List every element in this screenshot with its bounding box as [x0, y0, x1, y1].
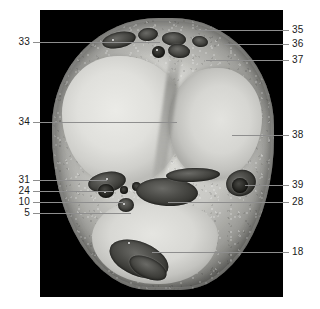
leader-line-24 — [33, 191, 113, 192]
specimen-plate — [40, 10, 283, 297]
marker-18 — [128, 242, 130, 244]
leader-line-28 — [168, 202, 289, 203]
label-35: 35 — [292, 25, 304, 35]
leader-line-10 — [33, 202, 123, 203]
leader-line-5 — [33, 213, 131, 214]
label-36: 36 — [292, 39, 304, 49]
structure-10-nerve — [120, 186, 128, 194]
leader-line-35 — [198, 30, 289, 31]
structure-5-vessel — [118, 198, 134, 212]
label-38: 38 — [292, 130, 304, 140]
label-5: 5 — [0, 208, 30, 218]
label-31: 31 — [0, 175, 30, 185]
marker-5 — [123, 203, 125, 205]
label-39: 39 — [292, 180, 304, 190]
leader-line-18 — [152, 252, 289, 253]
label-10: 10 — [0, 197, 30, 207]
label-24: 24 — [0, 186, 30, 196]
label-37: 37 — [292, 55, 304, 65]
marker-37 — [156, 49, 158, 51]
leader-line-36 — [224, 44, 289, 45]
leader-line-37 — [206, 60, 289, 61]
leader-line-33 — [33, 42, 160, 43]
label-28: 28 — [292, 197, 304, 207]
leader-line-39 — [245, 185, 289, 186]
structure-37-vessel — [152, 46, 165, 58]
label-18: 18 — [292, 247, 304, 257]
label-34: 34 — [0, 117, 30, 127]
marker-33 — [112, 39, 114, 41]
label-33: 33 — [0, 37, 30, 47]
anatomical-figure: 33 34 31 24 10 5 35 36 37 38 39 28 18 — [0, 0, 320, 309]
leader-line-38 — [232, 135, 289, 136]
leader-line-31 — [33, 180, 107, 181]
leader-line-34 — [33, 122, 177, 123]
